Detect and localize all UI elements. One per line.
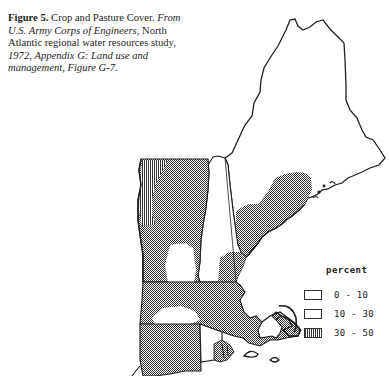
state-connecticut bbox=[132, 324, 201, 376]
legend-label: 10 - 30 bbox=[334, 309, 374, 319]
state-vermont bbox=[138, 159, 209, 282]
legend-item-0-10: 0 - 10 bbox=[304, 289, 368, 301]
legend-title: percent bbox=[326, 265, 367, 275]
legend-swatch-stipple bbox=[304, 309, 322, 319]
state-maine bbox=[225, 19, 385, 257]
legend-item-30-50: 30 - 50 bbox=[304, 327, 374, 339]
legend-label: 0 - 10 bbox=[334, 290, 368, 300]
legend-swatch-blank bbox=[304, 290, 322, 300]
legend-item-10-30: 10 - 30 bbox=[304, 308, 374, 320]
legend-label: 30 - 50 bbox=[334, 328, 374, 338]
legend-swatch-vertical-hatch bbox=[304, 328, 322, 338]
